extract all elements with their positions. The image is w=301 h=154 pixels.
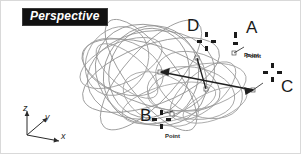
point-marker-d[interactable] (197, 32, 216, 51)
marker-dash-up (160, 110, 163, 115)
marker-dash-right (166, 118, 171, 121)
marker-dash-up (205, 32, 208, 37)
marker-dash-right (277, 71, 282, 74)
perspective-viewport: Perspective D A Point B Point C Point z … (0, 0, 301, 154)
marker-dash-down (160, 124, 163, 129)
point-caption-c: Point (246, 53, 261, 60)
marker-dash-up (271, 63, 274, 68)
point-marker-a[interactable] (229, 32, 241, 46)
marker-dash-right (211, 40, 216, 43)
marker-dash-up (234, 32, 237, 38)
point-label-a: A (246, 19, 257, 36)
marker-dash-down (271, 77, 274, 82)
marker-dash-left (152, 118, 157, 121)
point-label-c: C (281, 78, 293, 95)
point-marker-b[interactable] (152, 110, 171, 129)
axis-label-y: y (45, 113, 50, 122)
marker-dash-left (263, 71, 268, 74)
point-label-b: B (140, 107, 151, 124)
viewport-label-plate[interactable]: Perspective (22, 8, 108, 26)
axis-label-x: x (61, 132, 66, 141)
marker-dash-down (233, 42, 238, 45)
point-caption-b: Point (165, 133, 180, 140)
axis-label-z: z (23, 104, 28, 113)
marker-dash-left (197, 40, 202, 43)
viewport-label-text: Perspective (30, 10, 100, 23)
axis-triad (25, 111, 59, 142)
point-marker-c[interactable] (263, 63, 282, 82)
marker-dash-down (205, 46, 208, 51)
